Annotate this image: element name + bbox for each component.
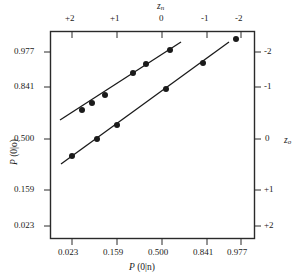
bottom-tick-label-0: 0.023	[58, 248, 78, 257]
right-tick-label-0: -2	[264, 47, 272, 56]
left-tick-label-3: 0.159	[14, 185, 34, 194]
right-axis-title-subscript: o	[288, 138, 292, 146]
left-axis-title-main: P	[9, 159, 19, 165]
left-tick-label-1: 0.841	[14, 82, 34, 91]
top-tick-label-3: -1	[201, 14, 209, 23]
bottom-tick-label-2: 0.500	[148, 248, 168, 257]
data-point	[94, 136, 100, 142]
top-axis-ticks	[72, 32, 241, 39]
data-point	[114, 122, 120, 128]
left-tick-label-4: 0.023	[14, 221, 34, 230]
data-point	[163, 86, 169, 92]
bottom-axis-ticks	[72, 239, 241, 246]
figure-container: +2 +1 0 -1 -2 zn 0.023 0.159 0.500 0.841…	[0, 0, 302, 279]
bottom-tick-label-3: 0.841	[193, 248, 213, 257]
right-tick-label-3: +1	[264, 185, 274, 194]
plot-frame	[51, 32, 255, 239]
right-axis-ticks	[255, 52, 262, 226]
top-tick-label-2: 0	[159, 14, 164, 23]
top-axis-title-subscript: n	[161, 4, 165, 12]
series-upper-roc-curve	[60, 42, 181, 120]
right-axis-title: zo	[284, 136, 291, 146]
left-tick-label-0: 0.977	[14, 47, 34, 56]
bottom-tick-label-4: 0.977	[227, 248, 247, 257]
right-tick-label-4: +2	[264, 221, 274, 230]
data-point	[89, 100, 95, 106]
data-point	[102, 92, 108, 98]
data-point	[143, 61, 149, 67]
right-tick-label-1: -1	[264, 82, 272, 91]
series-lower-roc-curve	[61, 36, 239, 164]
right-tick-label-2: 0	[265, 134, 270, 143]
top-tick-label-1: +1	[110, 14, 120, 23]
left-axis-ticks	[44, 52, 51, 226]
left-axis-title-arg: (0|o)	[9, 139, 19, 157]
bottom-axis-title: P (0|n)	[129, 263, 155, 273]
data-point	[79, 107, 85, 113]
fit-line-upper	[60, 42, 181, 120]
bottom-axis-title-arg: (0|n)	[137, 262, 155, 272]
top-tick-label-0: +2	[65, 14, 75, 23]
top-axis-title: zn	[157, 2, 164, 12]
top-tick-label-4: -2	[235, 14, 243, 23]
data-point	[130, 70, 136, 76]
data-point	[233, 36, 239, 42]
data-point	[69, 153, 75, 159]
plot-canvas	[0, 0, 302, 279]
data-point	[167, 47, 173, 53]
bottom-tick-label-1: 0.159	[103, 248, 123, 257]
data-point	[200, 60, 206, 66]
left-axis-title: P (0|o)	[10, 139, 20, 165]
